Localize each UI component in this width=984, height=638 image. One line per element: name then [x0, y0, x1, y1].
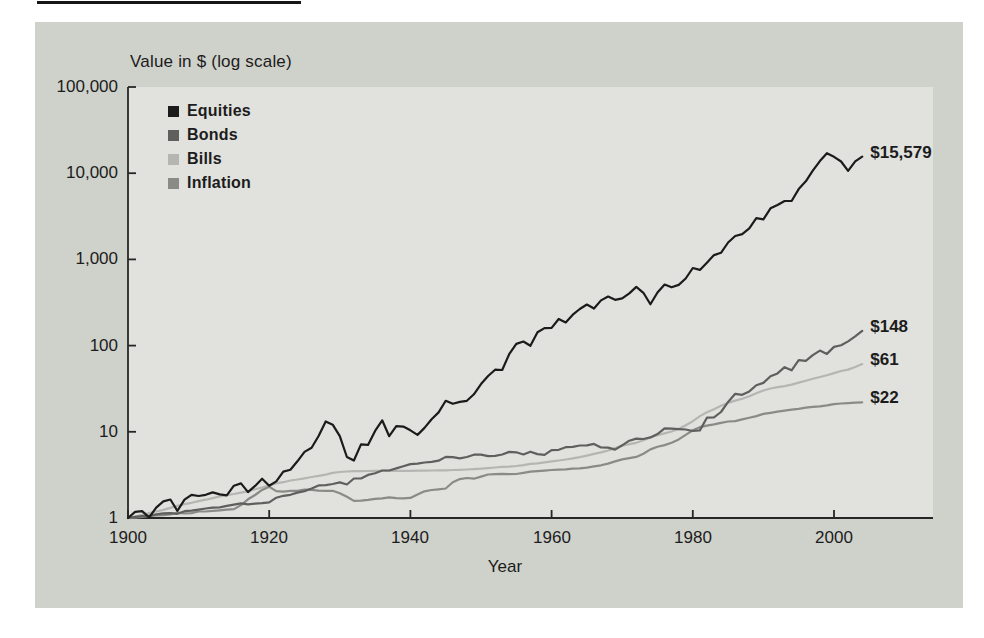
bonds-end-value-label: $148	[870, 317, 908, 337]
y-tick-label-1: 1	[26, 508, 118, 528]
y-tick-label-1000: 1,000	[26, 249, 118, 269]
x-tick-label-1940: 1940	[378, 528, 442, 548]
x-tick-label-1960: 1960	[520, 528, 584, 548]
legend-label-bills: Bills	[187, 150, 222, 168]
legend-label-equities: Equities	[187, 102, 251, 120]
bonds-swatch-icon	[168, 130, 179, 141]
page-top-rule	[37, 1, 301, 4]
legend-item-equities: Equities	[168, 99, 251, 123]
bills-end-value-label: $61	[870, 350, 898, 370]
equities-end-value-label: $15,579	[870, 143, 931, 163]
x-tick-label-2000: 2000	[802, 528, 866, 548]
inflation-swatch-icon	[168, 178, 179, 189]
x-tick-label-1980: 1980	[661, 528, 725, 548]
y-tick-label-10000: 10,000	[26, 163, 118, 183]
legend-item-bonds: Bonds	[168, 123, 251, 147]
legend-item-bills: Bills	[168, 147, 251, 171]
legend: Equities Bonds Bills Inflation	[168, 99, 251, 195]
equities-swatch-icon	[168, 106, 179, 117]
bills-swatch-icon	[168, 154, 179, 165]
x-tick-label-1920: 1920	[237, 528, 301, 548]
legend-label-inflation: Inflation	[187, 174, 251, 192]
y-tick-label-10: 10	[26, 422, 118, 442]
legend-item-inflation: Inflation	[168, 171, 251, 195]
legend-label-bonds: Bonds	[187, 126, 238, 144]
x-tick-label-1900: 1900	[96, 528, 160, 548]
y-tick-label-100000: 100,000	[26, 77, 118, 97]
x-axis-title: Year	[460, 557, 550, 577]
y-tick-label-100: 100	[26, 336, 118, 356]
chart-title: Value in $ (log scale)	[130, 52, 292, 72]
page: Value in $ (log scale) 1 10 100 1,000 10…	[0, 0, 984, 638]
inflation-end-value-label: $22	[870, 388, 898, 408]
